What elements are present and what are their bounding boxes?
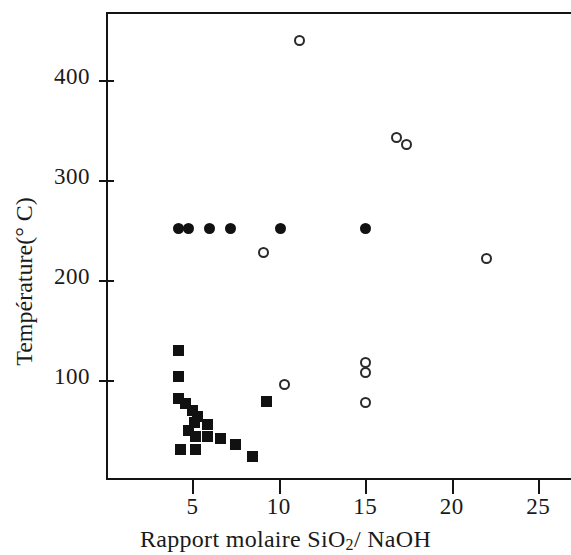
x-tick: [192, 478, 194, 494]
y-tick: [99, 180, 114, 182]
data-point-filled-circle: [183, 223, 194, 234]
x-axis-title-pre: Rapport molaire SiO: [140, 526, 346, 552]
y-axis-line: [106, 12, 108, 480]
data-point-open-circle: [258, 247, 269, 258]
data-point-filled-square: [173, 345, 184, 356]
x-tick: [452, 478, 454, 494]
data-point-open-circle: [360, 397, 371, 408]
data-point-filled-square: [261, 396, 272, 407]
plot-area: 100200300400 510152025: [106, 12, 571, 480]
data-point-filled-circle: [173, 223, 184, 234]
y-tick: [99, 80, 114, 82]
data-point-open-circle: [401, 139, 412, 150]
x-tick-label: 25: [508, 494, 568, 520]
x-axis-title-post: / NaOH: [354, 526, 431, 552]
data-point-open-circle: [391, 132, 402, 143]
data-point-filled-square: [173, 371, 184, 382]
data-point-filled-square: [190, 444, 201, 455]
x-tick: [279, 478, 281, 494]
x-axis-title-subscript: 2: [346, 536, 354, 553]
y-axis-title: Température(° C): [11, 72, 38, 492]
top-frame-line: [106, 12, 571, 14]
data-point-filled-square: [175, 444, 186, 455]
data-point-filled-square: [202, 431, 213, 442]
data-point-open-circle: [360, 357, 371, 368]
x-tick: [538, 478, 540, 494]
x-tick: [365, 478, 367, 494]
y-tick: [99, 380, 114, 382]
data-point-filled-circle: [360, 223, 371, 234]
x-tick-label: 5: [162, 494, 222, 520]
data-point-open-circle: [360, 367, 371, 378]
x-tick-label: 15: [335, 494, 395, 520]
data-point-open-circle: [294, 35, 305, 46]
x-tick-label: 20: [422, 494, 482, 520]
data-point-filled-circle: [275, 223, 286, 234]
data-point-filled-square: [215, 433, 226, 444]
data-point-open-circle: [279, 379, 290, 390]
data-point-filled-square: [230, 439, 241, 450]
x-tick-label: 10: [249, 494, 309, 520]
data-point-filled-circle: [204, 223, 215, 234]
scatter-chart-figure: 100200300400 510152025 Rapport molaire S…: [0, 0, 571, 555]
data-point-filled-square: [202, 419, 213, 430]
data-point-filled-circle: [225, 223, 236, 234]
y-tick: [99, 280, 114, 282]
data-point-filled-square: [247, 451, 258, 462]
x-axis-line: [106, 478, 571, 480]
x-axis-title: Rapport molaire SiO2/ NaOH: [0, 526, 571, 554]
data-point-filled-square: [190, 431, 201, 442]
data-point-open-circle: [481, 253, 492, 264]
